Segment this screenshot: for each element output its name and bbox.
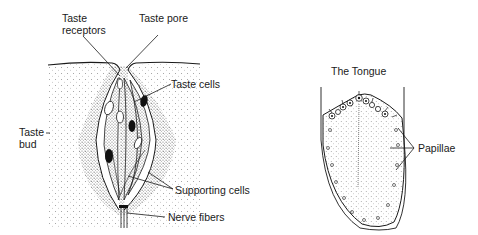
label-taste-bud-line2: bud xyxy=(19,138,37,150)
label-taste-receptors-line1: Taste xyxy=(62,12,87,24)
label-taste-bud-line1: Taste xyxy=(19,126,44,138)
label-taste-pore: Taste pore xyxy=(139,12,188,24)
tongue-title: The Tongue xyxy=(331,65,386,77)
label-papillae: Papillae xyxy=(418,142,455,154)
label-taste-cells: Taste cells xyxy=(171,78,220,90)
label-nerve-fibers: Nerve fibers xyxy=(168,211,225,223)
label-supporting-cells: Supporting cells xyxy=(175,184,250,196)
label-taste-receptors-line2: receptors xyxy=(62,24,106,36)
tongue-illustration xyxy=(321,87,406,230)
